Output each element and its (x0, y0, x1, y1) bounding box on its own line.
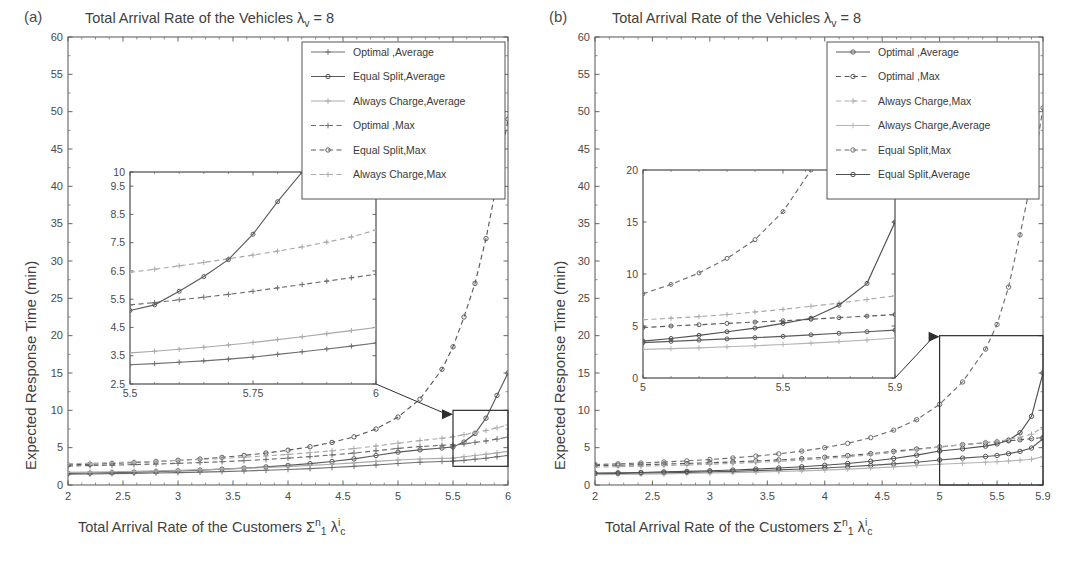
tick-label: 20 (626, 164, 638, 176)
tick-label: 25 (578, 292, 590, 304)
tick-label: 5 (937, 490, 943, 502)
tick-label: 6 (505, 490, 511, 502)
legend-label-4: Equal Split,Max (878, 144, 952, 156)
tick-label: 30 (51, 255, 63, 267)
tick-label: 25 (51, 292, 63, 304)
tick-label: 6.5 (110, 265, 125, 277)
legend-label-4: Equal Split,Max (353, 144, 427, 156)
tick-label: 3 (175, 490, 181, 502)
tick-label: 10 (626, 268, 638, 280)
tick-label: 0 (584, 479, 590, 491)
tick-label: 0 (632, 372, 638, 384)
zoom-connector (376, 384, 453, 419)
tick-label: 5.5 (110, 293, 125, 305)
tick-label: 60 (578, 31, 590, 43)
data-point-marker (418, 397, 422, 401)
legend: Optimal ,AverageOptimal ,MaxAlways Charg… (827, 42, 1039, 199)
tick-label: 7.5 (110, 236, 125, 248)
tick-label: 3.5 (225, 490, 240, 502)
panel-b: (b) Total Arrival Rate of the Vehicles λ… (539, 0, 1078, 565)
tick-label: 55 (51, 68, 63, 80)
tick-label: 3.5 (760, 490, 775, 502)
tick-label: 5.9 (1035, 490, 1050, 502)
tick-label: 5.5 (989, 490, 1004, 502)
tick-label: 2 (65, 490, 71, 502)
tick-label: 4.5 (110, 321, 125, 333)
tick-label: 6 (373, 387, 379, 399)
legend-label-1: Equal Split,Average (353, 70, 445, 82)
tick-label: 10 (578, 404, 590, 416)
tick-label: 8.5 (110, 208, 125, 220)
tick-label: 5 (640, 381, 646, 393)
tick-label: 15 (626, 216, 638, 228)
tick-label: 5 (584, 441, 590, 453)
tick-label: 45 (51, 143, 63, 155)
tick-label: 4.5 (335, 490, 350, 502)
panel-a-inset-axes: 5.55.7562.53.54.55.56.57.58.59.510 (110, 166, 379, 399)
legend-label-0: Optimal ,Average (353, 46, 434, 58)
tick-label: 2 (592, 490, 598, 502)
zoom-region-box (940, 336, 1043, 485)
tick-label: 55 (578, 68, 590, 80)
legend-label-2: Always Charge,Average (353, 95, 466, 107)
tick-label: 35 (51, 217, 63, 229)
panel-a: (a) Total Arrival Rate of the Vehicles λ… (0, 0, 539, 565)
legend-label-3: Optimal ,Max (353, 119, 416, 131)
plot-frame (643, 170, 895, 378)
tick-label: 45 (578, 143, 590, 155)
tick-label: 50 (51, 105, 63, 117)
tick-label: 20 (578, 329, 590, 341)
figure-root: (a) Total Arrival Rate of the Vehicles λ… (0, 0, 1078, 565)
arrow-head (929, 332, 940, 342)
tick-label: 4.5 (875, 490, 890, 502)
tick-label: 2.5 (645, 490, 660, 502)
tick-label: 5 (395, 490, 401, 502)
tick-label: 9.5 (110, 180, 125, 192)
series-line (595, 373, 1043, 473)
tick-label: 4 (822, 490, 828, 502)
arrow-head (442, 409, 453, 419)
tick-label: 4 (285, 490, 291, 502)
tick-label: 35 (578, 217, 590, 229)
tick-label: 10 (113, 166, 125, 178)
plot-frame (130, 172, 376, 384)
tick-label: 5 (57, 441, 63, 453)
zoom-region-box (453, 410, 508, 466)
tick-label: 15 (51, 367, 63, 379)
legend-label-1: Optimal ,Max (878, 70, 941, 82)
tick-label: 40 (578, 180, 590, 192)
tick-label: 5.5 (776, 381, 791, 393)
series-equal-split-average (593, 371, 1045, 476)
legend: Optimal ,AverageEqual Split,AverageAlway… (302, 42, 505, 199)
tick-label: 10 (51, 404, 63, 416)
tick-label: 5 (632, 320, 638, 332)
legend-label-5: Always Charge,Max (353, 168, 447, 180)
legend-label-2: Always Charge,Max (878, 95, 972, 107)
tick-label: 0 (57, 479, 63, 491)
tick-label: 2.5 (110, 378, 125, 390)
tick-label: 60 (51, 31, 63, 43)
tick-label: 3.5 (110, 349, 125, 361)
tick-label: 5.9 (888, 381, 903, 393)
legend-label-5: Equal Split,Average (878, 168, 970, 180)
tick-label: 3 (707, 490, 713, 502)
zoom-connector (895, 332, 940, 378)
tick-label: 50 (578, 105, 590, 117)
tick-label: 5.75 (243, 387, 264, 399)
legend-label-0: Optimal ,Average (878, 46, 959, 58)
tick-label: 40 (51, 180, 63, 192)
panel-a-plot: 22.533.544.555.5605101520253035404550556… (0, 0, 539, 565)
tick-label: 5.5 (445, 490, 460, 502)
legend-label-3: Always Charge,Average (878, 119, 991, 131)
tick-label: 15 (578, 367, 590, 379)
tick-label: 20 (51, 329, 63, 341)
tick-label: 30 (578, 255, 590, 267)
tick-label: 2.5 (115, 490, 130, 502)
panel-b-plot: 22.533.544.555.55.9051015202530354045505… (539, 0, 1078, 565)
series-line (595, 439, 1043, 474)
